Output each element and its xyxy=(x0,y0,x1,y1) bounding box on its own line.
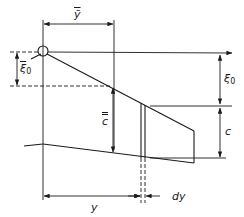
trailing-edge-line xyxy=(43,144,194,163)
root-leading-stub xyxy=(31,54,41,59)
y-label: y xyxy=(91,202,98,213)
wing-planform-diagram xyxy=(0,0,244,217)
xi0-label: ξ0 xyxy=(224,73,235,86)
trailing-edge-stub-left xyxy=(24,144,43,146)
reference-axis-line xyxy=(48,52,232,53)
y-bar-label: ȳ xyxy=(74,9,81,20)
dy-label: dy xyxy=(172,191,186,202)
c-double-bar-label: c xyxy=(102,112,108,127)
xi0-subscript: 0 xyxy=(230,77,235,86)
xi0-bar-label: ξ0 xyxy=(20,63,31,76)
leading-edge-line xyxy=(47,54,194,131)
xi0-bar-subscript: 0 xyxy=(26,67,31,76)
c-label: c xyxy=(225,126,231,137)
